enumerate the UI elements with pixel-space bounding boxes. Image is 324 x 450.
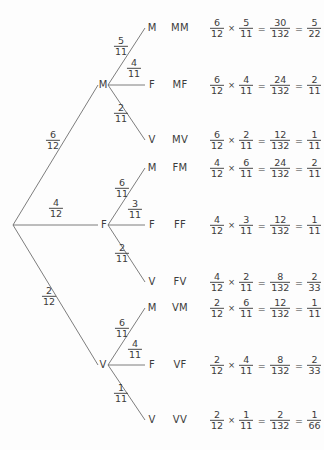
fraction-numerator: 4 [130, 58, 138, 68]
fraction-numerator: 5 [310, 18, 318, 28]
branch-prob-f-m: 611 [114, 178, 130, 198]
equals-symbol: = [291, 80, 306, 91]
fraction-denominator: 33 [307, 282, 321, 293]
fraction-denominator: 11 [128, 349, 142, 360]
fraction-denominator: 132 [270, 420, 290, 431]
fraction-numerator: 6 [213, 75, 221, 85]
multiply-symbol: × [225, 163, 238, 173]
fraction: 311 [128, 199, 142, 219]
branch-prob-root-v: 212 [41, 286, 57, 306]
equals-symbol: = [254, 80, 269, 91]
fraction-numerator: 6 [118, 178, 126, 188]
leaf-label-mm: M [148, 23, 157, 33]
leaf-label-ff: F [149, 220, 155, 230]
fraction-denominator: 12 [42, 296, 56, 307]
branch-prob-v-m: 611 [114, 318, 130, 338]
branch-prob-v-f: 411 [127, 339, 143, 359]
fraction-numerator: 30 [273, 18, 287, 28]
fraction: 611 [239, 298, 253, 318]
probability-equation-ff: 412×311=12132=111 [209, 215, 322, 235]
outcome-code-mv: MV [172, 135, 188, 145]
fraction-denominator: 11 [307, 85, 321, 96]
fraction-denominator: 11 [307, 225, 321, 236]
fraction-denominator: 12 [210, 85, 224, 96]
fraction-denominator: 12 [210, 168, 224, 179]
multiply-symbol: × [225, 303, 238, 313]
outcome-code-fm: FM [173, 163, 188, 173]
fraction-denominator: 132 [270, 365, 290, 376]
equals-symbol: = [291, 277, 306, 288]
fraction-denominator: 11 [115, 253, 129, 264]
fraction-numerator: 2 [310, 75, 318, 85]
fraction-numerator: 4 [213, 215, 221, 225]
fraction-denominator: 132 [270, 168, 290, 179]
equals-symbol: = [291, 220, 306, 231]
fraction-numerator: 6 [213, 18, 221, 28]
equals-symbol: = [254, 163, 269, 174]
fraction-denominator: 11 [239, 308, 253, 319]
fraction-numerator: 1 [310, 215, 318, 225]
equals-symbol: = [291, 303, 306, 314]
fraction-numerator: 2 [242, 130, 250, 140]
node-label-f: F [101, 220, 107, 230]
fraction: 212 [210, 355, 224, 375]
equals-symbol: = [254, 415, 269, 426]
branch-prob-f-v: 211 [114, 243, 130, 263]
fraction: 211 [239, 130, 253, 150]
fraction: 412 [210, 215, 224, 235]
fraction: 412 [210, 158, 224, 178]
fraction-numerator: 4 [213, 158, 221, 168]
fraction-numerator: 12 [273, 130, 287, 140]
fraction-denominator: 132 [270, 140, 290, 151]
leaf-label-fv: V [149, 277, 156, 287]
fraction: 111 [307, 215, 321, 235]
fraction-denominator: 11 [239, 168, 253, 179]
fraction-denominator: 11 [128, 209, 142, 220]
outcome-code-fv: FV [173, 277, 186, 287]
fraction-denominator: 11 [114, 113, 128, 124]
fraction: 412 [210, 272, 224, 292]
fraction-numerator: 4 [131, 339, 139, 349]
fraction-denominator: 132 [270, 282, 290, 293]
fraction-numerator: 1 [310, 298, 318, 308]
fraction: 511 [239, 18, 253, 38]
fraction: 111 [114, 383, 128, 403]
outcome-code-mm: MM [171, 23, 189, 33]
fraction: 24132 [270, 75, 290, 95]
equals-symbol: = [291, 163, 306, 174]
fraction-denominator: 12 [210, 420, 224, 431]
fraction-denominator: 11 [239, 225, 253, 236]
fraction-numerator: 2 [213, 355, 221, 365]
fraction: 612 [210, 130, 224, 150]
fraction: 233 [307, 272, 321, 292]
fraction: 411 [127, 58, 141, 78]
fraction-numerator: 2 [242, 272, 250, 282]
probability-equation-vm: 212×611=12132=111 [209, 298, 322, 318]
fraction-denominator: 11 [114, 393, 128, 404]
branch-prob-root-f: 412 [48, 198, 64, 218]
multiply-symbol: × [225, 360, 238, 370]
fraction-numerator: 2 [213, 298, 221, 308]
fraction-numerator: 2 [117, 103, 125, 113]
fraction: 12132 [270, 130, 290, 150]
fraction: 611 [115, 318, 129, 338]
fraction-numerator: 1 [117, 383, 125, 393]
fraction-numerator: 4 [242, 355, 250, 365]
fraction-numerator: 4 [242, 75, 250, 85]
equals-symbol: = [254, 135, 269, 146]
fraction-numerator: 2 [310, 158, 318, 168]
fraction-denominator: 132 [270, 85, 290, 96]
fraction-numerator: 8 [276, 272, 284, 282]
fraction-denominator: 12 [210, 225, 224, 236]
fraction-numerator: 24 [273, 158, 287, 168]
fraction-denominator: 11 [307, 308, 321, 319]
fraction: 211 [115, 243, 129, 263]
probability-equation-mv: 612×211=12132=111 [209, 130, 322, 150]
outcome-code-vm: VM [172, 303, 188, 313]
outcome-code-ff: FF [174, 220, 186, 230]
fraction-denominator: 12 [210, 365, 224, 376]
multiply-symbol: × [225, 277, 238, 287]
branch-prob-root-m: 612 [45, 130, 61, 150]
fraction-numerator: 5 [242, 18, 250, 28]
fraction-denominator: 11 [239, 420, 253, 431]
